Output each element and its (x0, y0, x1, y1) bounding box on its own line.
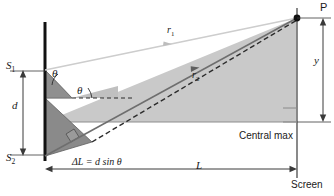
label-distance-L: L (196, 160, 202, 171)
dimension-L-arrow-left (45, 166, 53, 172)
label-ray-r2-subscript: 2 (196, 75, 199, 82)
label-theta-upper: θ (52, 68, 57, 79)
label-slit-2-subscript: 2 (12, 157, 16, 166)
label-path-difference: ΔL = d sin θ (72, 157, 122, 167)
label-slit-2: S2 (6, 152, 15, 166)
label-ray-r2: r2 (192, 70, 199, 83)
dimension-y-arrow-top (320, 18, 326, 26)
label-ray-r1-subscript: 1 (171, 30, 174, 37)
dimension-L-arrow-right (290, 166, 298, 172)
label-central-max: Central max (239, 131, 293, 141)
label-height-y: y (314, 55, 319, 66)
label-theta-lower: θ (77, 85, 82, 96)
label-slit-1-subscript: 1 (12, 65, 16, 74)
label-ray-r1: r1 (167, 25, 174, 38)
label-screen: Screen (291, 180, 323, 190)
label-slit-1: S1 (6, 60, 15, 74)
dimension-y-arrow-bottom (320, 115, 326, 123)
label-point-p: P (320, 2, 327, 13)
double-slit-diagram: S1 S2 d θ θ r1 r2 ΔL = d sin θ L y Centr… (0, 0, 334, 196)
label-slit-separation: d (12, 100, 18, 111)
slit-wedge-dark-upper (45, 70, 72, 98)
